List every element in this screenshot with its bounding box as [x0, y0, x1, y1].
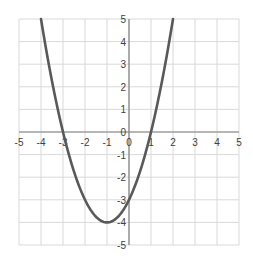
x-tick-label: -2: [81, 137, 90, 148]
y-tick-label: -4: [117, 217, 126, 228]
parabola-chart: -5-4-3-2-1012345 543210-1-2-3-4-5: [0, 0, 253, 261]
x-tick-label: -5: [15, 137, 24, 148]
x-tick-label: 4: [214, 137, 220, 148]
y-tick-label: -2: [117, 172, 126, 183]
x-tick-label: -4: [37, 137, 46, 148]
y-tick-label: 5: [120, 14, 126, 25]
y-tick-label: 4: [120, 37, 126, 48]
y-tick-label: 0: [120, 127, 126, 138]
y-tick-label: 2: [120, 82, 126, 93]
axes: [19, 19, 239, 245]
y-tick-label: 1: [120, 104, 126, 115]
x-axis-tick-labels: -5-4-3-2-1012345: [15, 137, 243, 148]
x-tick-label: 0: [126, 137, 132, 148]
y-tick-label: -5: [117, 240, 126, 251]
x-tick-label: 2: [170, 137, 176, 148]
y-tick-label: 3: [120, 59, 126, 70]
x-tick-label: 3: [192, 137, 198, 148]
x-tick-label: -1: [103, 137, 112, 148]
y-tick-label: -3: [117, 195, 126, 206]
y-tick-label: -1: [117, 150, 126, 161]
x-tick-label: 5: [236, 137, 242, 148]
